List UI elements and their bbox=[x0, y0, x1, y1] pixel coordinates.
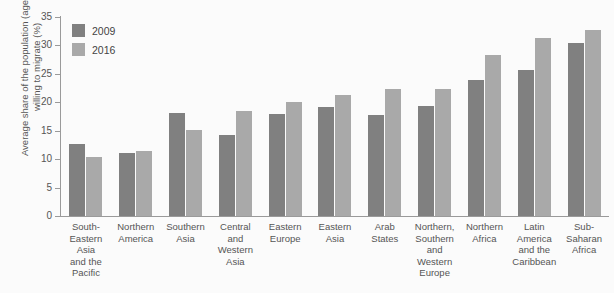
bar-group bbox=[210, 17, 260, 216]
bar-2016[interactable] bbox=[535, 38, 551, 216]
bar-2009[interactable] bbox=[468, 80, 484, 216]
y-tick-label: 10 bbox=[30, 153, 52, 164]
legend-label: 2009 bbox=[92, 25, 115, 37]
bar-group bbox=[111, 17, 161, 216]
bar-chart: Average share of the population (age 15+… bbox=[0, 0, 614, 293]
bar-2009[interactable] bbox=[568, 43, 584, 216]
x-axis-line bbox=[60, 216, 609, 217]
bar-group bbox=[559, 17, 609, 216]
bar-2016[interactable] bbox=[585, 30, 601, 216]
bar-2009[interactable] bbox=[418, 106, 434, 216]
bar-group bbox=[310, 17, 360, 216]
y-tick-label: 5 bbox=[30, 182, 52, 193]
y-tick-label: 30 bbox=[30, 39, 52, 50]
bar-2009[interactable] bbox=[119, 153, 135, 216]
x-category-label: Sub- Saharan Africa bbox=[553, 221, 614, 256]
y-tick-label: 20 bbox=[30, 96, 52, 107]
legend-label: 2016 bbox=[92, 44, 115, 56]
y-tick-label: 0 bbox=[30, 210, 52, 221]
bar-2009[interactable] bbox=[219, 135, 235, 216]
y-axis-title: Average share of the population (age 15+… bbox=[19, 0, 43, 172]
bar-2009[interactable] bbox=[318, 107, 334, 216]
bar-2016[interactable] bbox=[435, 89, 451, 216]
y-tick-label: 35 bbox=[30, 11, 52, 22]
bar-2016[interactable] bbox=[286, 102, 302, 216]
bar-group bbox=[260, 17, 310, 216]
bar-2016[interactable] bbox=[335, 95, 351, 216]
bar-2016[interactable] bbox=[136, 151, 152, 216]
bar-group bbox=[509, 17, 559, 216]
legend-swatch-icon bbox=[72, 43, 85, 56]
legend-swatch-icon bbox=[72, 24, 85, 37]
bar-2009[interactable] bbox=[69, 144, 85, 216]
plot-area bbox=[61, 17, 609, 216]
bar-group bbox=[410, 17, 460, 216]
bar-group bbox=[161, 17, 211, 216]
y-tick-label: 25 bbox=[30, 68, 52, 79]
bar-2016[interactable] bbox=[186, 130, 202, 216]
bar-2009[interactable] bbox=[169, 113, 185, 216]
legend-item[interactable]: 2016 bbox=[72, 43, 115, 56]
bar-2016[interactable] bbox=[485, 55, 501, 216]
bar-2016[interactable] bbox=[236, 111, 252, 216]
y-tick-label: 15 bbox=[30, 125, 52, 136]
bar-2016[interactable] bbox=[86, 157, 102, 216]
bar-group bbox=[460, 17, 510, 216]
bar-2009[interactable] bbox=[518, 70, 534, 216]
bar-2009[interactable] bbox=[269, 114, 285, 216]
bar-2009[interactable] bbox=[368, 115, 384, 216]
legend-item[interactable]: 2009 bbox=[72, 24, 115, 37]
bar-2016[interactable] bbox=[385, 89, 401, 216]
bar-group bbox=[360, 17, 410, 216]
chart-legend: 20092016 bbox=[72, 24, 115, 62]
